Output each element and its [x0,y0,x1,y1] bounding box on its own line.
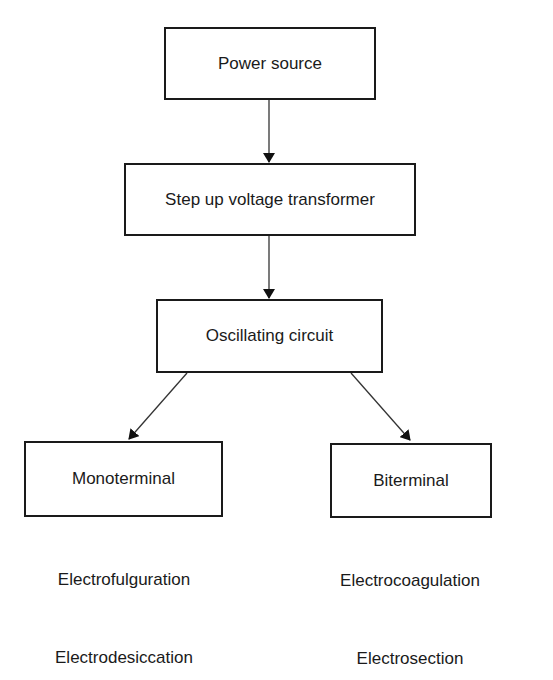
node-label: Oscillating circuit [206,326,334,346]
node-label: Monoterminal [72,469,175,489]
use-electrodesiccation: Electrodesiccation [55,648,193,668]
node-label: Power source [218,54,322,74]
use-electrocoagulation: Electrocoagulation [340,571,480,591]
node-biterminal: Biterminal [330,443,492,518]
use-electrofulguration: Electrofulguration [58,570,190,590]
use-electrosection: Electrosection [357,649,464,669]
node-power-source: Power source [164,27,376,100]
node-oscillating-circuit: Oscillating circuit [156,299,383,373]
arrow-oscillator-to-biterminal [351,373,410,440]
node-label: Step up voltage transformer [165,190,375,210]
node-label: Biterminal [373,471,449,491]
node-step-up-transformer: Step up voltage transformer [124,163,416,236]
arrow-oscillator-to-monoterminal [129,373,187,439]
node-monoterminal: Monoterminal [24,441,223,517]
